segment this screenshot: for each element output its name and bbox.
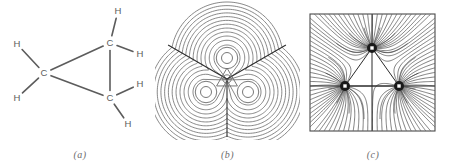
- gradient-trajectory: [311, 28, 369, 56]
- bond-c-h: [23, 78, 39, 93]
- nucleus-contour: [222, 53, 233, 64]
- caption-panel-a: (a): [0, 149, 160, 160]
- atom-label-h-top-right: H: [137, 48, 144, 59]
- gradient-trajectory: [311, 88, 343, 109]
- gradient-trajectory: [375, 28, 434, 56]
- panel-c-canvas: [295, 0, 451, 140]
- panel-a-structural-formula: CCCHHHHHH (a): [0, 0, 160, 164]
- atom-label-group: CCCHHHHHH: [14, 5, 144, 129]
- nucleus-contour: [201, 87, 212, 98]
- atom-label-h-top-above: H: [115, 5, 122, 16]
- caption-panel-b: (b): [155, 149, 300, 160]
- bond-c-c: [51, 76, 103, 96]
- atom-label-h-bottom-right: H: [137, 78, 144, 89]
- panel-b-contour-map: (b): [155, 0, 300, 164]
- nucleus-contour: [243, 87, 254, 98]
- atom-label-h-left-upper: H: [14, 38, 21, 49]
- atom-label-c-left: C: [41, 67, 48, 78]
- gradient-trajectory: [311, 86, 342, 90]
- atom-label-h-bottom-below: H: [125, 118, 132, 129]
- bond-c-h: [114, 104, 123, 118]
- nucleus-core-marker: [343, 84, 346, 87]
- gradient-trajectory: [311, 82, 342, 86]
- panel-c-gradient-field: (c): [295, 0, 451, 164]
- bond-c-h: [112, 18, 116, 35]
- panel-a-canvas: CCCHHHHHH: [0, 0, 160, 140]
- nucleus-core-marker: [370, 46, 373, 49]
- atom-label-h-left-lower: H: [14, 92, 21, 103]
- bond-c-c: [51, 46, 103, 70]
- atom-label-c-bottom: C: [107, 92, 114, 103]
- nucleus-contour: [216, 47, 237, 68]
- gradient-trajectory: [402, 77, 434, 85]
- caption-panel-c: (c): [295, 149, 451, 160]
- gradient-trajectory: [402, 82, 434, 86]
- gradient-trajectory: [375, 44, 407, 53]
- gradient-trajectory: [402, 88, 434, 108]
- gradient-trajectory: [315, 15, 369, 49]
- atom-label-c-top: C: [107, 37, 114, 48]
- interatomic-surface-group: [168, 45, 286, 137]
- figure-root: CCCHHHHHH (a) (b) (c): [0, 0, 451, 164]
- gradient-trajectory: [401, 89, 430, 130]
- bond-c-h: [117, 46, 133, 52]
- panel-b-canvas: [155, 0, 300, 140]
- bond-c-h: [22, 49, 39, 67]
- gradient-trajectory: [353, 15, 369, 45]
- nucleus-contour: [195, 81, 216, 102]
- nucleus-core-marker: [397, 84, 400, 87]
- nucleus-contour: [237, 81, 258, 102]
- bond-c-h: [117, 87, 133, 95]
- bond-group: [22, 18, 133, 118]
